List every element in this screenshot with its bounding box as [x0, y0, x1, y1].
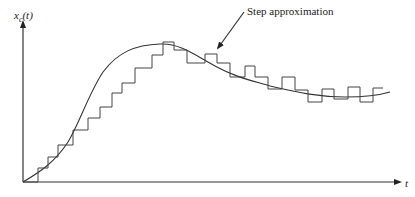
- step-approximation-staircase: [23, 42, 383, 182]
- x-axis-label: t: [405, 177, 408, 189]
- continuous-signal-curve: [23, 44, 390, 182]
- y-axis-label-argument: (t): [22, 9, 32, 21]
- y-axis-label: xc(t): [14, 9, 33, 24]
- annotation-label: Step approximation: [247, 5, 333, 17]
- annotation-arrow: [218, 12, 244, 48]
- step-approximation-diagram: [0, 0, 415, 197]
